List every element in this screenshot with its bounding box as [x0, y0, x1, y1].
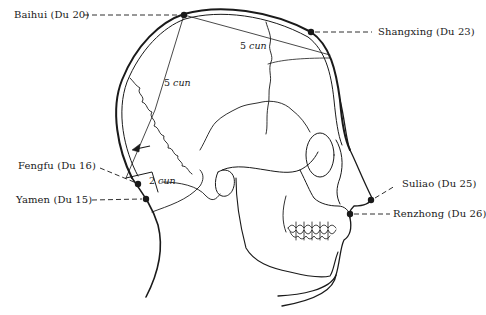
- zygomatic-arch: [222, 152, 318, 172]
- skull-outline: [122, 14, 342, 176]
- label-shangxing: Shangxing (Du 23): [378, 26, 475, 38]
- face-profile: [278, 100, 372, 296]
- leader-yamen: [92, 199, 142, 200]
- label-suliao: Suliao (Du 25): [402, 178, 476, 190]
- label-fengfu: Fengfu (Du 16): [18, 160, 96, 172]
- measure-crown-to-occiput: 5 cun: [164, 77, 191, 88]
- measure-occiput-to-nape: 2 cun: [149, 175, 176, 186]
- orbit: [306, 133, 334, 177]
- squamosal-suture: [200, 101, 310, 150]
- label-renzhong: Renzhong (Du 26): [393, 208, 486, 220]
- acupoint-dot-icon: [135, 181, 141, 187]
- acupoint-dot-icon: [308, 29, 314, 35]
- scalp-outline: [116, 9, 350, 178]
- measure-crown-to-forehead: 5 cun: [240, 40, 267, 51]
- leader-suliao: [375, 186, 395, 198]
- label-baihui: Baihui (Du 20): [14, 9, 89, 21]
- temporal-line: [268, 58, 330, 64]
- throat-outline: [282, 275, 336, 306]
- label-yamen: Yamen (Du 15): [16, 194, 92, 206]
- mastoid-process: [215, 170, 234, 196]
- nasal-aperture: [336, 140, 342, 204]
- mandible: [236, 178, 338, 277]
- mandible-ramus: [283, 196, 286, 232]
- acupoint-dot-icon: [347, 211, 353, 217]
- arrow-left-icon: [132, 144, 150, 152]
- acupoint-dot-icon: [368, 197, 374, 203]
- maxilla: [300, 170, 350, 218]
- lambdoid-suture: [130, 78, 192, 174]
- acupoint-dot-icon: [181, 12, 187, 18]
- acupoint-dot-icon: [143, 196, 149, 202]
- teeth: [288, 222, 336, 240]
